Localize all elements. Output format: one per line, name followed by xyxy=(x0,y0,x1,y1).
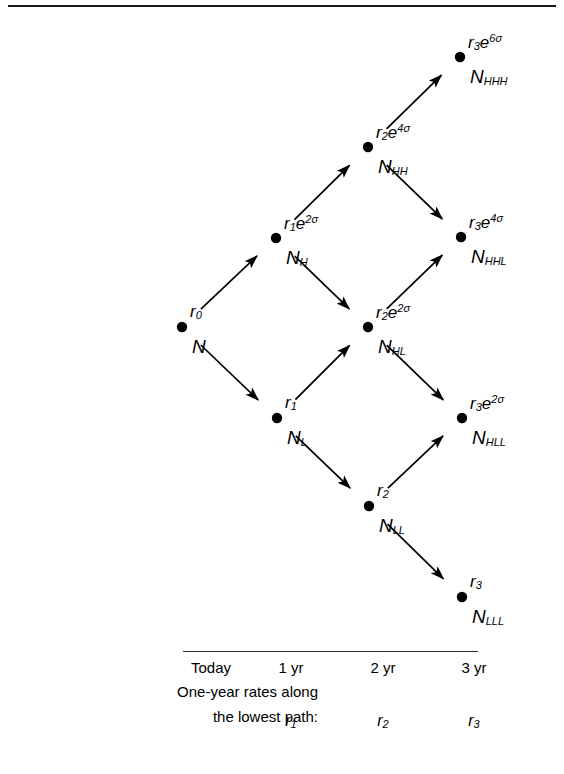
tree-edge-NH-to-NHH xyxy=(294,165,349,219)
tree-node-NHHL xyxy=(456,232,466,242)
tree-edge-NL-to-NHL xyxy=(295,345,349,399)
timeline-column-1: 1 yr xyxy=(278,659,303,676)
rate-label-NLLL: r3 xyxy=(470,573,482,591)
rate-label-NHH: r2e4σ xyxy=(376,123,410,142)
tree-node-N xyxy=(177,322,187,332)
state-label-NHLL: NHLL xyxy=(472,428,506,448)
state-label-NLLL: NLLL xyxy=(472,607,504,627)
timeline-column-3: 3 yr xyxy=(461,659,486,676)
rate-label-NHHH: r3e6σ xyxy=(468,33,502,52)
state-label-NLL: NLL xyxy=(379,516,405,536)
tree-edge-N-to-NH xyxy=(201,256,257,309)
timeline-rate-r1: r1 xyxy=(285,713,296,730)
tree-node-NHLL xyxy=(457,413,467,423)
timeline-column-0: Today xyxy=(191,659,231,676)
state-label-NL: NL xyxy=(287,428,307,448)
rate-label-NL: r1 xyxy=(285,394,297,412)
timeline-rate-r3: r3 xyxy=(468,713,479,730)
node-layer xyxy=(177,52,467,602)
state-label-NHHH: NHHH xyxy=(470,67,508,87)
state-label-NHL: NHL xyxy=(378,337,406,357)
tree-edge-NLL-to-NHLL xyxy=(388,436,443,488)
caption-line-1: One-year rates along xyxy=(18,683,318,700)
rate-label-NH: r1e2σ xyxy=(284,214,318,233)
rate-label-N: r0 xyxy=(190,303,202,321)
state-label-N: N xyxy=(192,337,206,356)
tree-node-NLL xyxy=(364,501,374,511)
rate-label-NHL: r2e2σ xyxy=(376,303,410,322)
tree-edge-N-to-NL xyxy=(201,345,258,400)
rate-label-NHHL: r3e4σ xyxy=(469,213,503,232)
tree-node-NHH xyxy=(363,142,373,152)
state-label-NH: NH xyxy=(286,248,308,268)
timeline-rule xyxy=(183,651,478,652)
state-label-NHHL: NHHL xyxy=(471,247,507,267)
tree-edge-NHH-to-NHHH xyxy=(387,75,442,129)
rate-label-NHLL: r3e2σ xyxy=(470,394,504,413)
timeline-column-2: 2 yr xyxy=(370,659,395,676)
tree-canvas xyxy=(0,0,564,774)
state-label-NHH: NHH xyxy=(378,157,408,177)
tree-edge-NHL-to-NHHL xyxy=(387,255,443,309)
timeline-rate-r2: r2 xyxy=(377,713,388,730)
tree-node-NHL xyxy=(363,322,373,332)
caption-line-2: the lowest path: xyxy=(18,708,318,725)
tree-node-NL xyxy=(272,413,282,423)
tree-node-NH xyxy=(271,233,281,243)
tree-node-NHHH xyxy=(455,52,465,62)
tree-node-NLLL xyxy=(457,592,467,602)
binomial-rate-tree-figure: r0Nr1e2σNHr1NLr2e4σNHHr2e2σNHLr2NLLr3e6σ… xyxy=(0,0,564,774)
edge-layer xyxy=(201,75,444,579)
rate-label-NLL: r2 xyxy=(377,482,389,500)
